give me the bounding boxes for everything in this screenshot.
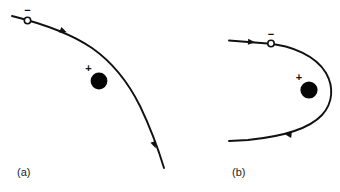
panel-b: − + (b) xyxy=(229,28,331,178)
direction-arrow-lower-a xyxy=(150,141,156,149)
plus-charge-label-a: + xyxy=(85,62,91,74)
nucleus-dot-b xyxy=(300,81,317,98)
minus-charge-label-b: − xyxy=(268,28,274,40)
trajectory-path-a xyxy=(12,16,164,168)
nucleus-dot-a xyxy=(91,73,108,90)
figure-root: − + (a) − + (b) xyxy=(0,0,340,192)
plus-charge-label-b: + xyxy=(296,71,302,83)
electron-open-circle-a xyxy=(24,17,30,23)
electron-open-circle-b xyxy=(268,40,274,46)
panel-label-b: (b) xyxy=(232,166,245,178)
minus-charge-label-a: − xyxy=(24,4,30,16)
direction-arrow-upper-a xyxy=(59,27,67,33)
panel-label-a: (a) xyxy=(17,166,30,178)
panel-a: − + (a) xyxy=(12,4,164,178)
direction-arrow-incoming-b xyxy=(248,39,255,45)
scattering-figure: − + (a) − + (b) xyxy=(0,0,340,192)
